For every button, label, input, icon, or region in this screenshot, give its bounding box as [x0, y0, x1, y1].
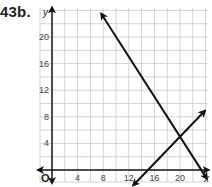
plot-line-2: [133, 111, 205, 185]
x-tick-label: 12: [124, 173, 134, 183]
y-tick-label: 12: [39, 85, 49, 95]
y-axis-label: y: [42, 7, 49, 18]
origin-label: O: [41, 172, 50, 184]
coordinate-graph: 4812162048121620yxO: [0, 0, 212, 187]
x-tick-label: 4: [75, 173, 80, 183]
grid: [40, 7, 208, 182]
x-tick-label: 16: [149, 173, 159, 183]
x-tick-label: 8: [101, 173, 106, 183]
y-tick-label: 4: [44, 138, 49, 148]
y-tick-label: 20: [39, 32, 49, 42]
y-tick-label: 16: [39, 59, 49, 69]
x-tick-label: 20: [175, 173, 185, 183]
y-tick-label: 8: [44, 112, 49, 122]
